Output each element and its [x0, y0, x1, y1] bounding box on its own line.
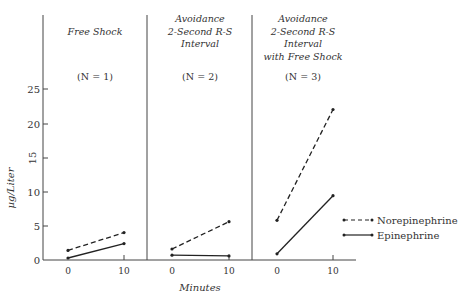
- panel-2-title-1: Avoidance: [174, 13, 225, 24]
- svg-text:25: 25: [27, 84, 40, 95]
- legend-norepinephrine: Norepinephrine: [377, 215, 458, 226]
- panel-3-title-1: Avoidance: [277, 13, 328, 24]
- panel-3-title-3: Interval: [283, 38, 322, 49]
- svg-text:10: 10: [118, 266, 130, 276]
- x-axis-label: Minutes: [178, 282, 220, 293]
- series-lines: [68, 110, 333, 259]
- panel-3-title-4: with Free Shock: [264, 51, 343, 62]
- svg-text:0: 0: [274, 266, 280, 276]
- epinephrine-line-p2: [172, 255, 229, 256]
- svg-text:(N = 2): (N = 2): [182, 71, 218, 82]
- svg-text:10: 10: [27, 187, 40, 198]
- y-tick-labels: 0 5 10 20 25: [27, 84, 40, 266]
- norepinephrine-line-p2: [172, 222, 229, 249]
- svg-text:5: 5: [34, 221, 40, 232]
- norepinephrine-line-p1: [68, 233, 124, 251]
- svg-text:10: 10: [223, 266, 235, 276]
- y-ticks: [43, 89, 48, 226]
- svg-text:0: 0: [34, 255, 40, 266]
- legend-epinephrine: Epinephrine: [377, 230, 440, 241]
- y-tick-15: 15: [27, 152, 38, 165]
- panel-1-title: Free Shock: [67, 26, 123, 37]
- svg-text:(N = 3): (N = 3): [285, 71, 321, 82]
- chart: 0 5 10 20 25 15 µg/Liter 0 10 0 10 0 10 …: [0, 0, 459, 298]
- x-tick-labels: 0 10 0 10 0 10: [65, 266, 339, 276]
- svg-text:20: 20: [27, 119, 40, 130]
- panel-titles: Free Shock Avoidance 2-Second R-S Interv…: [67, 13, 343, 62]
- panel-3-title-2: 2-Second R-S: [270, 26, 336, 37]
- epinephrine-line-p1: [68, 244, 124, 258]
- y-axis-label: µg/Liter: [5, 166, 16, 208]
- panel-2-title-3: Interval: [180, 38, 219, 49]
- panel-2-title-2: 2-Second R-S: [167, 26, 233, 37]
- svg-text:(N = 1): (N = 1): [77, 71, 113, 82]
- svg-text:0: 0: [169, 266, 175, 276]
- svg-text:0: 0: [65, 266, 71, 276]
- svg-text:10: 10: [327, 266, 339, 276]
- legend: Norepinephrine Epinephrine: [343, 215, 458, 241]
- data-points: [66, 108, 334, 260]
- panel-n-labels: (N = 1) (N = 2) (N = 3): [77, 71, 321, 82]
